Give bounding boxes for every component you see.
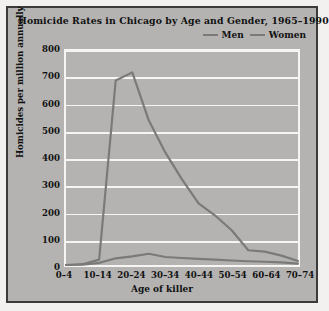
x-axis-tick-label: 60–64: [252, 270, 280, 280]
y-axis-tick-label: 500: [14, 126, 60, 136]
y-axis-tick-label: 700: [14, 71, 60, 81]
x-axis-tick-label: 40–44: [185, 270, 213, 280]
x-axis-tick-label: 20–24: [117, 270, 145, 280]
y-axis-tick-label: 800: [14, 44, 60, 54]
y-axis-tick-label: 0: [14, 262, 60, 272]
legend-entry-men: Men: [203, 30, 244, 40]
chart-figure: Homicide Rates in Chicago by Age and Gen…: [6, 6, 318, 303]
y-axis-tick-label: 100: [14, 235, 60, 245]
x-axis-tick-label: 70–74: [286, 270, 314, 280]
x-axis-tick-label: 10–14: [84, 270, 112, 280]
legend-label-men: Men: [222, 30, 244, 40]
series-layer: [66, 51, 298, 265]
x-axis-tick-label: 50–54: [218, 270, 246, 280]
x-axis-tick-label: 0–4: [56, 270, 72, 280]
x-axis-title: Age of killer: [8, 284, 316, 294]
legend-entry-women: Women: [250, 30, 306, 40]
y-axis-tick-label: 200: [14, 208, 60, 218]
legend-swatch-men: [203, 34, 218, 37]
series-svg: [66, 51, 298, 265]
x-axis-tick-label: 30–34: [151, 270, 179, 280]
chart-legend: Men Women: [203, 30, 306, 40]
chart-title: Homicide Rates in Chicago by Age and Gen…: [18, 15, 329, 26]
y-axis-tick-label: 400: [14, 153, 60, 163]
legend-swatch-women: [250, 34, 265, 37]
plot-area: [64, 49, 300, 267]
legend-label-women: Women: [269, 30, 306, 40]
y-axis-tick-label: 300: [14, 180, 60, 190]
y-axis-tick-label: 600: [14, 99, 60, 109]
series-line-women: [66, 254, 298, 265]
y-axis-ticks: 0100200300400500600700800: [8, 8, 60, 305]
series-line-men: [66, 72, 298, 265]
